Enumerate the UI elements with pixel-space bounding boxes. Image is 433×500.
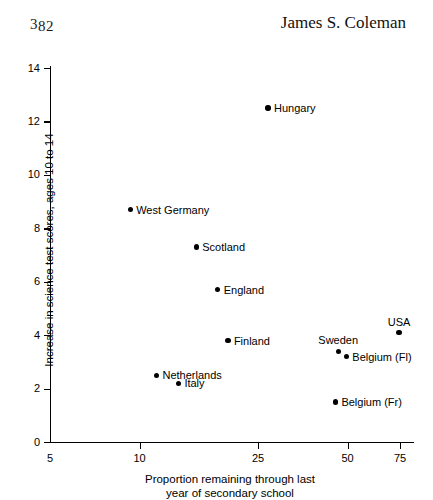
y-tick-label-wrap-4: 4 <box>14 330 40 341</box>
y-tick-label-wrap-8: 8 <box>14 223 40 234</box>
data-point-marker <box>225 338 230 343</box>
x-axis-title-line-1: Proportion remaining through last <box>80 472 380 486</box>
data-point-label: West Germany <box>136 205 209 216</box>
y-tick-label-6: 6 <box>18 276 40 287</box>
data-point-marker <box>265 105 270 110</box>
x-tick-label-10: 10 <box>120 452 160 464</box>
y-tick-label-wrap-0: 0 <box>14 437 40 448</box>
data-point-marker <box>176 381 181 386</box>
data-point-label: Finland <box>234 336 270 347</box>
x-tick-50 <box>348 443 349 449</box>
data-point-label: Belgium (Fr) <box>341 397 402 408</box>
data-point-marker <box>336 349 341 354</box>
y-axis-title: Increase in science test scores, ages 10… <box>43 105 55 395</box>
y-tick-label-12: 12 <box>18 116 40 127</box>
data-point-marker <box>194 244 199 249</box>
y-tick-label-wrap-14: 14 <box>14 63 40 74</box>
data-point-marker <box>333 399 338 404</box>
data-point-label: USA <box>388 317 411 328</box>
data-point-label: Scotland <box>202 242 245 253</box>
x-tick-label-50: 50 <box>328 452 368 464</box>
y-tick-label-wrap-10: 10 <box>14 169 40 180</box>
page-number: 382 <box>30 16 54 33</box>
x-tick-label-25: 25 <box>238 452 278 464</box>
y-tick-label-8: 8 <box>18 223 40 234</box>
y-tick-0 <box>44 442 50 443</box>
data-point-marker <box>128 207 133 212</box>
running-head: 382 James S. Coleman <box>0 0 433 48</box>
data-point-label: Belgium (Fl) <box>352 352 411 363</box>
plot-area: 02468101214 510255075 HungaryWest German… <box>0 48 433 490</box>
x-axis-title-line-2: year of secondary school <box>80 486 380 500</box>
page-number-remaining-digits: 82 <box>38 18 54 34</box>
y-tick-label-wrap-12: 12 <box>14 116 40 127</box>
y-tick-label-10: 10 <box>18 169 40 180</box>
data-point-label: England <box>224 285 264 296</box>
x-tick-label-5: 5 <box>30 452 70 464</box>
page-number-first-digit: 3 <box>30 16 38 32</box>
data-point-label: Hungary <box>274 103 316 114</box>
y-tick-label-2: 2 <box>18 383 40 394</box>
data-point-label: Italy <box>184 378 204 389</box>
data-point-marker <box>344 354 349 359</box>
data-point-marker <box>215 287 220 292</box>
x-tick-10 <box>140 443 141 449</box>
x-tick-25 <box>258 443 259 449</box>
y-tick-label-4: 4 <box>18 330 40 341</box>
x-tick-label-75: 75 <box>380 452 420 464</box>
data-point-label: Sweden <box>318 335 358 346</box>
x-tick-75 <box>400 443 401 449</box>
author-name: James S. Coleman <box>281 13 406 33</box>
scatter-plot-figure: 02468101214 510255075 HungaryWest German… <box>0 48 433 490</box>
y-tick-label-0: 0 <box>18 437 40 448</box>
y-tick-label-wrap-6: 6 <box>14 276 40 287</box>
x-axis-title: Proportion remaining through last year o… <box>80 472 380 500</box>
data-point-marker <box>396 330 401 335</box>
y-tick-label-wrap-2: 2 <box>14 383 40 394</box>
data-point-marker <box>154 373 159 378</box>
y-tick-label-14: 14 <box>18 63 40 74</box>
x-axis-line <box>50 442 414 443</box>
y-tick-14 <box>44 68 50 69</box>
